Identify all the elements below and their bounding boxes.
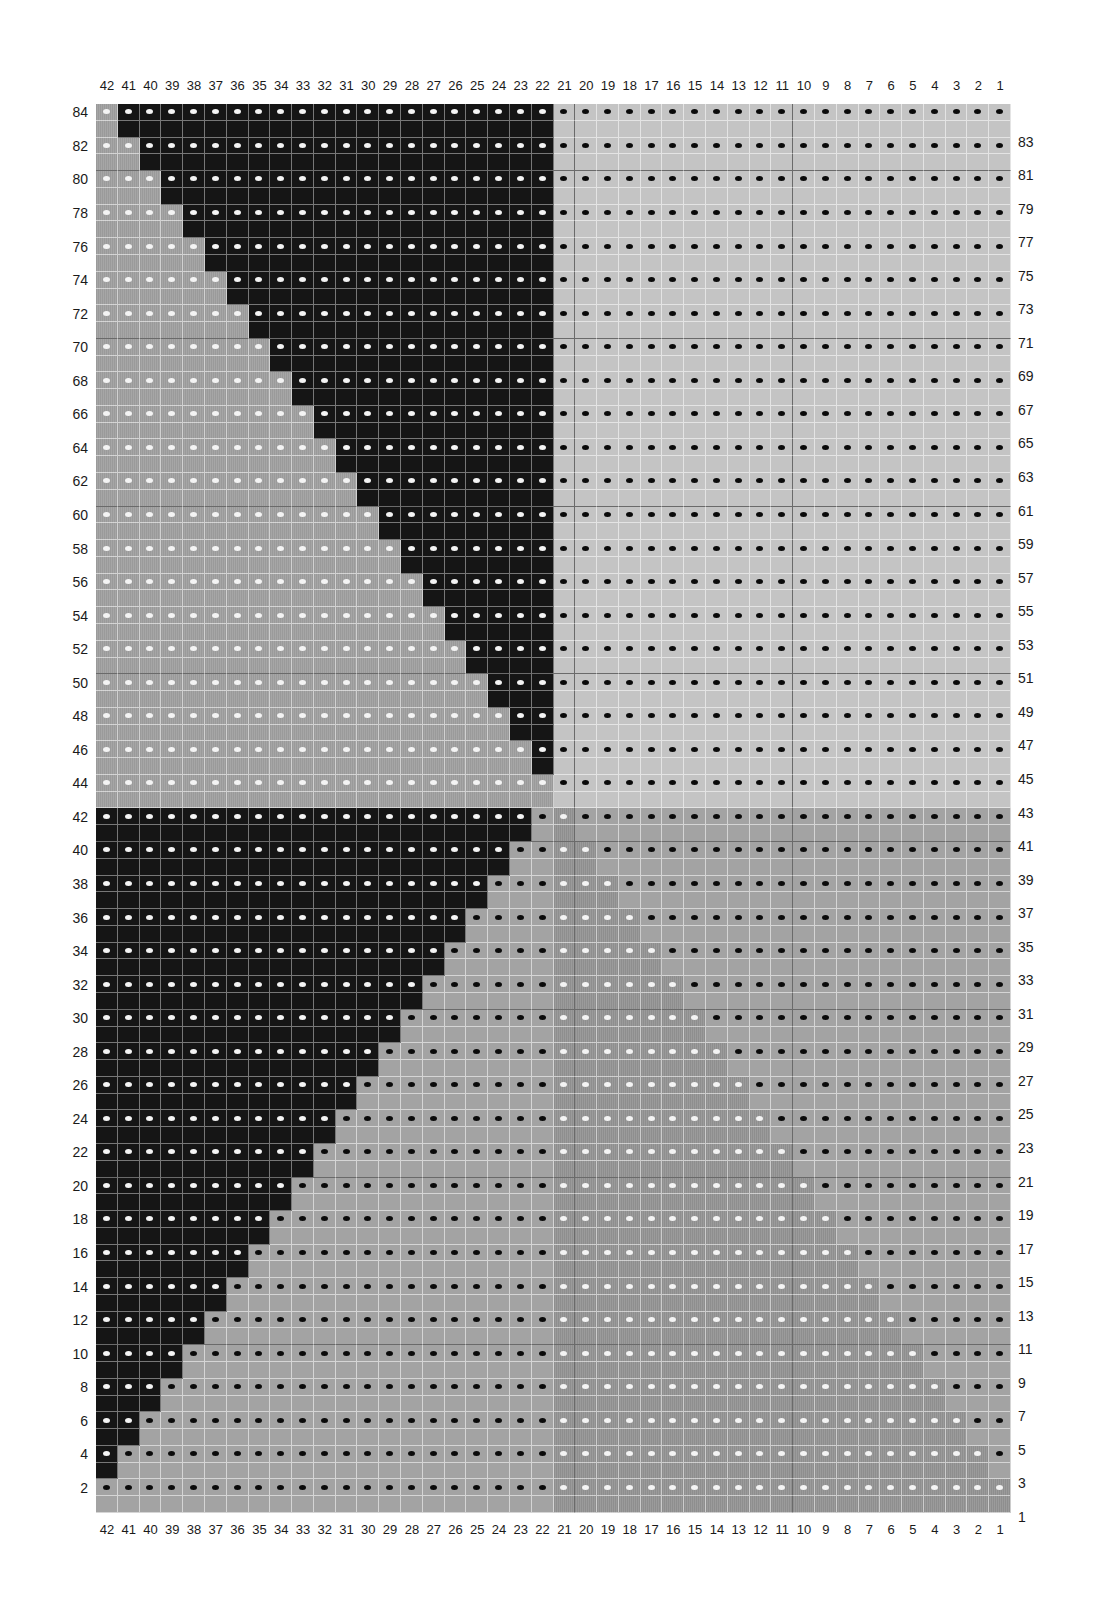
stitch-cell [989,708,1011,725]
stitch-cell [532,221,554,238]
stitch-dot-icon [604,210,611,215]
stitch-dot-icon [648,411,655,416]
stitch-dot-icon [822,478,829,483]
stitch-dot-icon [146,1284,153,1289]
stitch-cell [183,406,205,423]
stitch-dot-icon [865,176,872,181]
stitch-cell [967,1094,989,1111]
stitch-cell [270,1094,292,1111]
stitch-dot-icon [909,277,916,282]
stitch-cell [967,406,989,423]
stitch-dot-icon [255,244,262,249]
stitch-cell [227,674,249,691]
stitch-dot-icon [103,814,110,819]
stitch-cell [859,456,881,473]
stitch-cell [793,205,815,222]
stitch-cell [161,138,183,155]
stitch-dot-icon [865,546,872,551]
stitch-cell [641,1060,663,1077]
stitch-cell [989,473,1011,490]
stitch-cell [684,1345,706,1362]
stitch-cell [946,725,968,742]
stitch-cell [314,1077,336,1094]
stitch-cell [292,792,314,809]
stitch-cell [445,557,467,574]
stitch-cell [532,507,554,524]
stitch-cell [597,1194,619,1211]
stitch-cell [488,892,510,909]
stitch-cell [423,624,445,641]
stitch-cell [314,1496,336,1513]
stitch-cell [662,473,684,490]
stitch-cell [270,1479,292,1496]
stitch-cell [445,507,467,524]
stitch-dot-icon [756,747,763,752]
stitch-dot-icon [321,478,328,483]
stitch-dot-icon [277,847,284,852]
stitch-cell [597,188,619,205]
stitch-dot-icon [277,915,284,920]
stitch-cell [96,507,118,524]
stitch-cell [750,1496,772,1513]
stitch-cell [445,322,467,339]
stitch-dot-icon [103,277,110,282]
stitch-cell [771,792,793,809]
stitch-dot-icon [974,881,981,886]
stitch-cell [205,205,227,222]
stitch-dot-icon [495,1317,502,1322]
stitch-cell [793,1077,815,1094]
stitch-cell [401,1178,423,1195]
stitch-cell [118,892,140,909]
stitch-dot-icon [255,1216,262,1221]
stitch-dot-icon [931,847,938,852]
stitch-dot-icon [277,948,284,953]
stitch-cell [423,876,445,893]
stitch-cell [249,792,271,809]
stitch-cell [902,842,924,859]
stitch-cell [554,255,576,272]
stitch-cell [706,792,728,809]
stitch-dot-icon [517,445,524,450]
stitch-dot-icon [430,881,437,886]
stitch-dot-icon [255,1418,262,1423]
stitch-cell [205,305,227,322]
stitch-cell [401,825,423,842]
stitch-dot-icon [386,445,393,450]
stitch-cell [205,138,227,155]
stitch-cell [118,356,140,373]
stitch-cell [859,993,881,1010]
stitch-dot-icon [125,1418,132,1423]
stitch-dot-icon [103,1418,110,1423]
stitch-cell [662,1194,684,1211]
stitch-cell [401,1245,423,1262]
stitch-dot-icon [778,1149,785,1154]
stitch-cell [510,741,532,758]
stitch-cell [859,943,881,960]
stitch-cell [205,658,227,675]
stitch-cell [684,188,706,205]
stitch-cell [880,121,902,138]
stitch-dot-icon [887,646,894,651]
stitch-dot-icon [931,411,938,416]
stitch-dot-icon [626,1049,633,1054]
stitch-cell [357,1110,379,1127]
stitch-dot-icon [255,1351,262,1356]
stitch-cell [837,1446,859,1463]
stitch-cell [227,876,249,893]
stitch-dot-icon [190,311,197,316]
stitch-dot-icon [473,1082,480,1087]
stitch-cell [118,255,140,272]
stitch-cell [554,372,576,389]
stitch-dot-icon [190,210,197,215]
stitch-cell [314,1245,336,1262]
stitch-dot-icon [669,713,676,718]
stitch-cell [532,658,554,675]
stitch-cell [140,439,162,456]
stitch-cell [597,842,619,859]
stitch-cell [532,725,554,742]
stitch-dot-icon [735,411,742,416]
stitch-cell [967,959,989,976]
stitch-cell [706,456,728,473]
stitch-dot-icon [451,613,458,618]
stitch-dot-icon [451,1384,458,1389]
